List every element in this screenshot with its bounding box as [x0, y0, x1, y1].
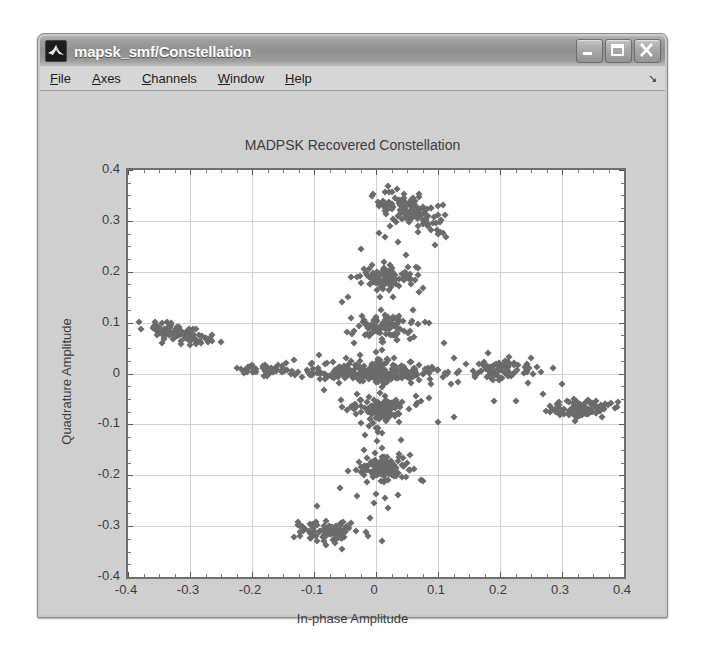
menu-channels-accel: C [142, 71, 151, 86]
data-point [335, 379, 342, 386]
y-tick-label: 0.4 [80, 161, 120, 176]
menu-channels-rest: hannels [151, 71, 197, 86]
x-tick-label: -0.4 [115, 582, 137, 597]
data-point [394, 491, 401, 498]
data-point [445, 368, 452, 375]
window-title: mapsk_smf/Constellation [74, 43, 574, 60]
data-point [428, 226, 435, 233]
x-tick-label: 0.4 [613, 582, 631, 597]
menu-item-file[interactable]: File [40, 69, 82, 88]
data-point [356, 352, 363, 359]
data-point [316, 352, 323, 359]
menu-item-axes[interactable]: Axes [82, 69, 132, 88]
data-point [217, 338, 224, 345]
data-point [441, 339, 448, 346]
plot-title: MADPSK Recovered Constellation [40, 137, 665, 153]
data-point [373, 491, 380, 498]
menu-help-rest: elp [294, 71, 311, 86]
data-point [390, 293, 397, 300]
data-point [364, 532, 371, 539]
y-axis-label: Quadrature Amplitude [59, 282, 74, 482]
data-point [371, 499, 378, 506]
y-tick-label: -0.4 [80, 568, 120, 583]
data-point [358, 279, 365, 286]
data-point [407, 320, 414, 327]
y-tick-label: 0.3 [80, 211, 120, 226]
data-point [394, 336, 401, 343]
maximize-button[interactable] [605, 39, 632, 63]
data-point [450, 413, 457, 420]
y-tick-label: -0.1 [80, 415, 120, 430]
data-point [381, 495, 388, 502]
menu-item-channels[interactable]: Channels [132, 69, 208, 88]
y-tick-label: 0 [80, 364, 120, 379]
data-point [442, 234, 449, 241]
data-point [450, 355, 457, 362]
data-point [357, 245, 364, 252]
data-point [527, 355, 534, 362]
data-point [373, 438, 380, 445]
menu-axes-accel: A [92, 71, 101, 86]
y-tick-label: 0.1 [80, 313, 120, 328]
axes-box [126, 168, 626, 579]
figure-window: mapsk_smf/Constellation File Axes Channe… [37, 33, 668, 618]
data-point [387, 223, 394, 230]
data-point [462, 361, 469, 368]
x-tick-label: 0.2 [489, 582, 507, 597]
data-point [354, 492, 361, 499]
menu-file-accel: F [50, 71, 58, 86]
menu-window-rest: indow [230, 71, 264, 86]
data-point [377, 293, 384, 300]
data-point [336, 484, 343, 491]
data-point [321, 386, 328, 393]
data-point [425, 394, 432, 401]
menu-item-help[interactable]: Help [275, 69, 323, 88]
data-point [549, 365, 556, 372]
data-point [379, 347, 386, 354]
menu-item-window[interactable]: Window [208, 69, 275, 88]
data-point [291, 357, 298, 364]
data-point [357, 420, 364, 427]
menu-axes-rest: xes [101, 71, 121, 86]
data-point [530, 371, 537, 378]
data-point [434, 418, 441, 425]
data-point [490, 398, 497, 405]
data-point [405, 405, 412, 412]
title-bar[interactable]: mapsk_smf/Constellation [40, 36, 665, 66]
x-tick-label: -0.1 [301, 582, 323, 597]
data-point [512, 398, 519, 405]
data-point [363, 479, 370, 486]
data-point [361, 431, 368, 438]
data-point [397, 436, 404, 443]
data-point [353, 528, 360, 535]
data-point [351, 339, 358, 346]
data-point [402, 252, 409, 259]
data-point [338, 545, 345, 552]
data-point [454, 379, 461, 386]
y-tick-label: 0.2 [80, 262, 120, 277]
data-point [366, 515, 373, 522]
x-tick-label: 0.3 [551, 582, 569, 597]
data-point [348, 314, 355, 321]
data-point [407, 451, 414, 458]
data-point [296, 533, 303, 540]
menu-overflow-arrow-icon[interactable]: ↘ [648, 73, 657, 84]
data-point [419, 478, 426, 485]
figure-panel: MADPSK Recovered Constellation -0.4-0.3-… [40, 91, 665, 615]
data-point [345, 294, 352, 301]
data-point [379, 538, 386, 545]
y-tick-label: -0.2 [80, 466, 120, 481]
data-point [395, 419, 402, 426]
matlab-membrane-icon [45, 40, 67, 62]
data-point [379, 445, 386, 452]
data-point [323, 542, 330, 549]
data-point [415, 271, 422, 278]
x-tick-label: -0.3 [177, 582, 199, 597]
data-point [484, 350, 491, 357]
minimize-button[interactable] [576, 39, 603, 63]
data-point [394, 239, 401, 246]
close-button[interactable] [634, 39, 661, 63]
menu-bar: File Axes Channels Window Help ↘ [40, 66, 665, 91]
data-point [298, 373, 305, 380]
data-point [558, 380, 565, 387]
